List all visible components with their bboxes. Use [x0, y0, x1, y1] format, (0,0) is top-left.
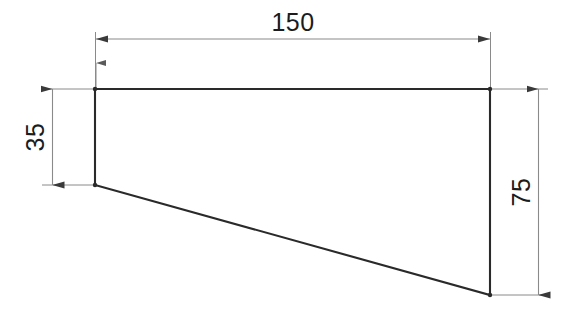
vertex-top-left: [93, 87, 97, 91]
vertex-bottom-left: [93, 183, 97, 187]
vertex-bottom-right: [488, 293, 492, 297]
dimension-75: 75: [507, 89, 539, 295]
trapezoid-profile: [95, 89, 490, 295]
drawing-svg: 150 35 75: [0, 0, 578, 328]
vertex-top-right: [488, 87, 492, 91]
dimension-label-75: 75: [507, 178, 535, 207]
dimension-label-150: 150: [271, 8, 314, 36]
technical-drawing-canvas: 150 35 75: [0, 0, 578, 328]
dimension-150: 150: [96, 8, 490, 39]
dimension-35: 35: [21, 89, 53, 185]
dimension-label-35: 35: [21, 123, 49, 152]
part-outline: [93, 87, 492, 297]
extension-lines: [42, 32, 548, 295]
